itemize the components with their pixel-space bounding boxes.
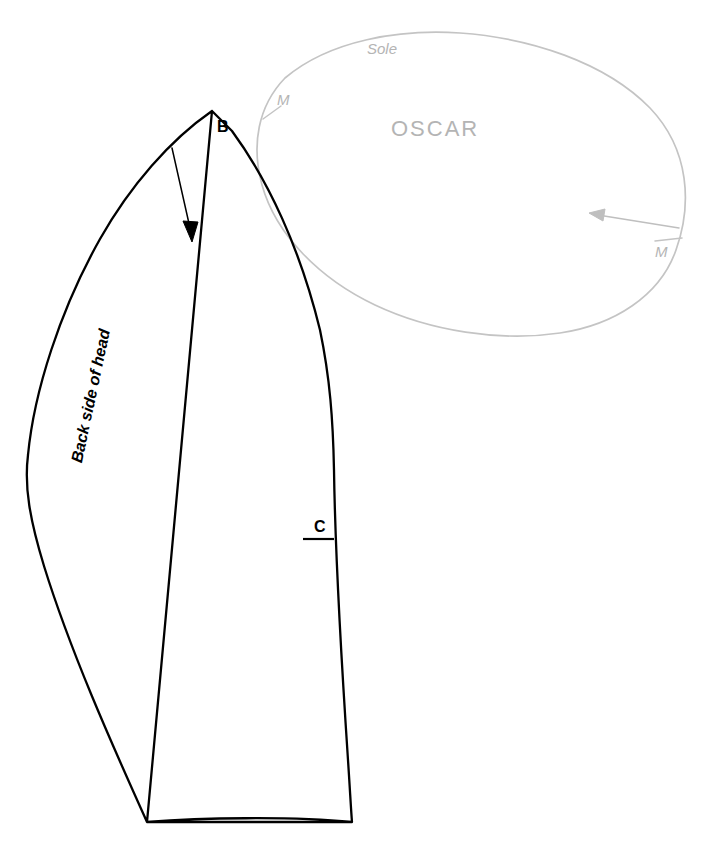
head-panel-grainline-arrow bbox=[172, 148, 198, 242]
sole-grainline-arrow bbox=[589, 209, 679, 228]
sole-piece bbox=[257, 32, 685, 336]
sole-outline bbox=[257, 32, 685, 336]
notch-label-b: B bbox=[217, 119, 229, 135]
pattern-drawing bbox=[0, 0, 713, 867]
sole-notch-right bbox=[655, 238, 682, 241]
sole-mark-label-m-left: M bbox=[277, 92, 290, 107]
notch-label-c: C bbox=[314, 519, 326, 535]
sole-mark-label-m-right: M bbox=[655, 244, 668, 259]
pattern-canvas: B C Back side of head Sole M M OSCAR bbox=[0, 0, 713, 867]
brand-label-oscar: OSCAR bbox=[391, 118, 479, 140]
sole-label: Sole bbox=[367, 41, 397, 56]
